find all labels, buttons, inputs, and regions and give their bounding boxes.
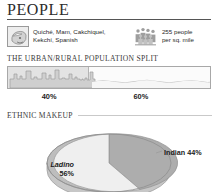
fact-languages: Quiché, Mam, Cakchiquel, Kekchí, Spanish (7, 26, 134, 47)
face-languages-icon (7, 26, 29, 47)
density-line-2: per sq. mile (162, 36, 194, 44)
title-divider (7, 19, 211, 20)
urban-rural-bar (7, 66, 211, 89)
ethnic-pie-chart: Ladino 56% Indian 44% (6, 123, 212, 192)
pie-label-ladino-value: 56% (26, 170, 74, 179)
pie-label-ladino: Ladino 56% (26, 161, 74, 178)
languages-line-1: Quiché, Mam, Cakchiquel, (33, 28, 106, 36)
pie-label-indian: Indian 44% (164, 149, 202, 158)
crowd-density-icon (134, 26, 158, 47)
fact-density: 255 people per sq. mile (134, 26, 212, 47)
urban-rural-labels: 40% 60% (7, 92, 211, 104)
urban-percent-label: 40% (42, 92, 57, 101)
skyline-landscape-art (8, 67, 211, 88)
ethnic-makeup-heading: ETHNIC MAKEUP (7, 111, 212, 120)
languages-text: Quiché, Mam, Cakchiquel, Kekchí, Spanish (33, 26, 106, 43)
page-title: PEOPLE (7, 2, 212, 18)
fact-row: Quiché, Mam, Cakchiquel, Kekchí, Spanish (6, 26, 212, 47)
ethnic-makeup-heading-text: ETHNIC MAKEUP (7, 111, 73, 120)
density-text: 255 people per sq. mile (162, 26, 194, 43)
ethnic-heading-rule (78, 115, 212, 116)
people-infographic-page: PEOPLE Quiché, Mam, Cakchiquel, Kekchí, … (0, 2, 218, 192)
density-line-1: 255 people (162, 28, 194, 36)
urban-rural-heading-text: THE URBAN/RURAL POPULATION SPLIT (7, 54, 158, 63)
urban-rural-heading: THE URBAN/RURAL POPULATION SPLIT (7, 54, 212, 63)
languages-line-2: Kekchí, Spanish (33, 36, 106, 44)
rural-percent-label: 60% (133, 92, 148, 101)
